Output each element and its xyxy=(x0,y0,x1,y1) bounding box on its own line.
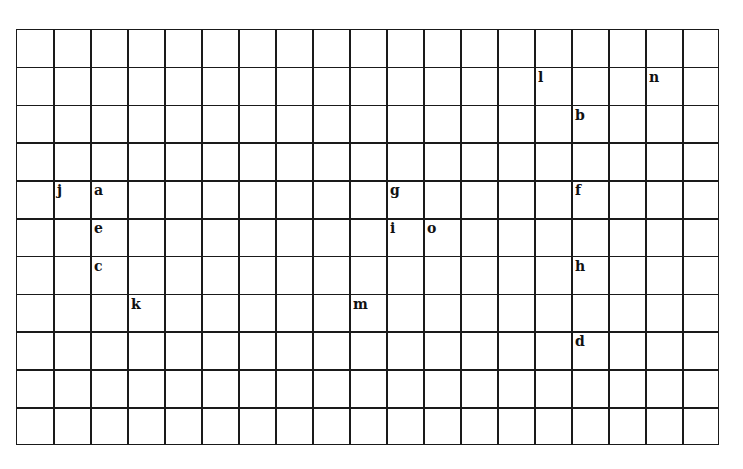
grid-letter-g: g xyxy=(390,183,400,197)
grid-horizontal-line xyxy=(17,407,718,409)
grid-vertical-line xyxy=(275,30,277,444)
grid-letter-j: j xyxy=(57,183,62,197)
grid-horizontal-line xyxy=(17,218,718,220)
grid-letter-n: n xyxy=(649,70,659,84)
grid-horizontal-line xyxy=(17,67,718,69)
grid-vertical-line xyxy=(497,30,499,444)
grid-vertical-line xyxy=(608,30,610,444)
grid-letter-l: l xyxy=(538,70,543,84)
grid-vertical-line xyxy=(534,30,536,444)
grid-vertical-line xyxy=(423,30,425,444)
grid-vertical-line xyxy=(164,30,166,444)
grid-vertical-line xyxy=(645,30,647,444)
grid-vertical-line xyxy=(312,30,314,444)
grid-letter-a: a xyxy=(94,183,103,197)
grid-letter-e: e xyxy=(94,221,103,235)
grid-letter-d: d xyxy=(575,334,585,348)
grid-vertical-line xyxy=(349,30,351,444)
grid-horizontal-line xyxy=(17,180,718,182)
grid-vertical-line xyxy=(460,30,462,444)
grid-letter-k: k xyxy=(131,297,141,311)
grid-horizontal-line xyxy=(17,294,718,296)
grid-horizontal-line xyxy=(17,142,718,144)
grid-horizontal-line xyxy=(17,105,718,107)
grid-letter-b: b xyxy=(575,108,585,122)
grid-vertical-line xyxy=(127,30,129,444)
grid-vertical-line xyxy=(90,30,92,444)
grid-vertical-line xyxy=(238,30,240,444)
grid-letter-i: i xyxy=(390,221,395,235)
grid-vertical-line xyxy=(571,30,573,444)
grid-letter-f: f xyxy=(575,183,581,197)
grid-letter-h: h xyxy=(575,259,585,273)
grid-horizontal-line xyxy=(17,369,718,371)
grid-vertical-line xyxy=(386,30,388,444)
letter-grid xyxy=(16,29,719,445)
grid-vertical-line xyxy=(53,30,55,444)
grid-horizontal-line xyxy=(17,256,718,258)
grid-letter-c: c xyxy=(94,259,103,273)
grid-vertical-line xyxy=(682,30,684,444)
grid-vertical-line xyxy=(201,30,203,444)
grid-letter-o: o xyxy=(427,221,436,235)
grid-letter-m: m xyxy=(353,297,368,311)
grid-horizontal-line xyxy=(17,331,718,333)
